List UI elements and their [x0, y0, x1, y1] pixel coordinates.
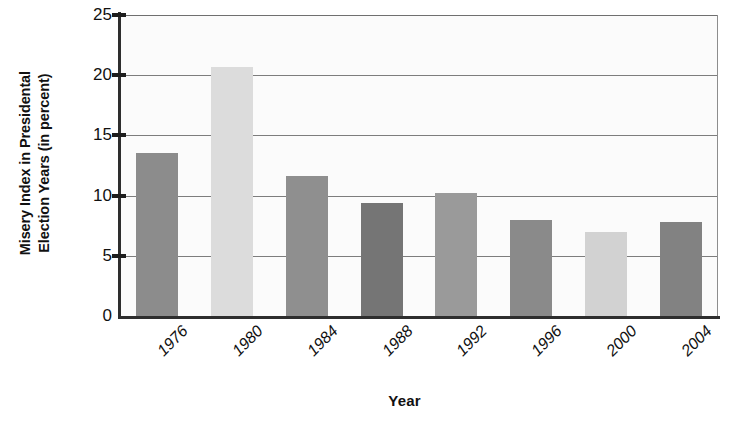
- y-axis-tick-mark: [112, 254, 126, 258]
- y-axis-tick-mark: [112, 194, 126, 198]
- y-axis-tick-label: 25: [78, 5, 112, 25]
- y-axis-line: [118, 12, 121, 319]
- gridline: [120, 75, 717, 76]
- bar-1976: [136, 153, 178, 316]
- gridline: [120, 256, 717, 257]
- bar-1996: [510, 220, 552, 316]
- y-axis-tick-label: 10: [78, 186, 112, 206]
- gridline: [120, 135, 717, 136]
- y-axis-tick-label: 0: [78, 306, 112, 326]
- x-axis-tick-label-2000: 2000: [603, 322, 641, 360]
- bar-chart-figure: Misery Index in Presidental Election Yea…: [0, 0, 731, 426]
- bar-1980: [211, 67, 253, 316]
- y-axis-tick-mark: [112, 73, 126, 77]
- y-axis-title-line2: Election Years (in percent): [35, 71, 54, 255]
- x-axis-tick-label-1984: 1984: [304, 322, 342, 360]
- x-axis-tick-label-1980: 1980: [229, 322, 267, 360]
- y-axis-title: Misery Index in Presidental Election Yea…: [0, 0, 70, 326]
- bar-1988: [361, 203, 403, 316]
- bar-2004: [660, 222, 702, 316]
- y-axis-tick-label: 20: [78, 65, 112, 85]
- x-axis-tick-label-1976: 1976: [154, 322, 192, 360]
- gridline: [120, 196, 717, 197]
- plot-area: [120, 15, 718, 316]
- bar-1992: [435, 193, 477, 316]
- bar-1984: [286, 176, 328, 316]
- gridline: [120, 15, 717, 16]
- y-axis-tick-label: 5: [78, 246, 112, 266]
- y-axis-tick-mark: [112, 13, 126, 17]
- x-axis-tick-label-1988: 1988: [378, 322, 416, 360]
- y-axis-tick-label: 15: [78, 125, 112, 145]
- y-axis-tick-mark: [112, 133, 126, 137]
- x-axis-title-text: Year: [388, 392, 421, 409]
- y-axis-tick-labels: 0510152025: [74, 0, 112, 326]
- x-axis-title: Year: [0, 392, 731, 409]
- x-axis-line: [118, 316, 720, 319]
- bar-2000: [585, 232, 627, 316]
- y-axis-title-line1: Misery Index in Presidental: [17, 71, 33, 255]
- x-axis-tick-label-1996: 1996: [528, 322, 566, 360]
- x-axis-tick-label-2004: 2004: [677, 322, 715, 360]
- x-axis-tick-label-1992: 1992: [453, 322, 491, 360]
- x-axis-tick-labels: 19761980198419881992199620002004: [120, 322, 718, 382]
